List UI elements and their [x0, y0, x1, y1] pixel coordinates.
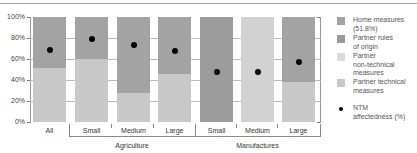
legend-dot-icon — [339, 107, 343, 111]
x-tick — [153, 124, 154, 128]
legend-label: Home measures (51.8%) — [353, 16, 404, 33]
y-tick-label: 60% — [0, 55, 25, 63]
x-tick-label: Large — [155, 127, 195, 134]
x-tick-label: Small — [197, 127, 237, 134]
x-tick-label: Large — [279, 127, 319, 134]
y-tick-label: 100% — [0, 13, 25, 21]
group-label: Agriculture — [69, 142, 195, 149]
bar-segment — [33, 17, 66, 68]
x-tick — [277, 124, 278, 128]
x-tick — [320, 124, 321, 137]
ntm-affectedness-marker — [296, 59, 302, 65]
legend-label: Partner non-technical measures — [353, 52, 395, 78]
bar-segment — [75, 59, 108, 122]
x-tick — [195, 124, 196, 137]
bar-6 — [282, 17, 315, 122]
group-label: Manufactures — [195, 142, 320, 149]
legend-swatch — [337, 79, 345, 87]
x-tick — [111, 124, 112, 128]
group-bracket — [195, 136, 320, 137]
legend-swatch — [337, 17, 345, 25]
bar-segment — [158, 74, 191, 122]
y-tick-label: 40% — [0, 76, 25, 84]
bar-segment — [33, 68, 66, 122]
x-tick-label: Medium — [114, 127, 154, 134]
ntm-affectedness-marker — [89, 36, 95, 42]
ntm-affectedness-marker — [255, 69, 261, 75]
x-tick — [69, 124, 70, 137]
y-tick-label: 0% — [0, 118, 25, 126]
bar-0 — [33, 17, 66, 122]
y-tick-label: 20% — [0, 97, 25, 105]
legend-swatch — [337, 53, 345, 61]
bar-segment — [282, 17, 315, 82]
ntm-affectedness-marker — [172, 48, 178, 54]
x-tick-label: Small — [72, 127, 112, 134]
legend-item: Partner rules of origin — [337, 34, 393, 51]
y-tick-label: 80% — [0, 34, 25, 42]
bar-1 — [75, 17, 108, 122]
bar-2 — [117, 17, 150, 122]
legend-swatch — [337, 35, 345, 43]
legend-item: NTM affectedness (%) — [337, 104, 405, 121]
plot-area — [30, 17, 321, 122]
legend-label: NTM affectedness (%) — [353, 104, 405, 121]
ntm-affectedness-marker — [214, 69, 220, 75]
legend-label: Partner technical measures — [353, 78, 406, 95]
bar-segment — [158, 17, 191, 74]
legend-item: Home measures (51.8%) — [337, 16, 404, 33]
x-tick-label: Medium — [238, 127, 278, 134]
bar-segment — [282, 82, 315, 122]
bar-3 — [158, 17, 191, 122]
x-tick — [236, 124, 237, 128]
legend-label: Partner rules of origin — [353, 34, 393, 51]
ntm-affectedness-marker — [47, 47, 53, 53]
top-rule — [0, 3, 417, 4]
legend-item: Partner non-technical measures — [337, 52, 395, 78]
bar-segment — [117, 17, 150, 93]
legend-item: Partner technical measures — [337, 78, 406, 95]
x-tick-label: All — [30, 127, 70, 134]
ntm-affectedness-marker — [131, 42, 137, 48]
group-bracket — [69, 136, 195, 137]
bar-segment — [117, 93, 150, 122]
